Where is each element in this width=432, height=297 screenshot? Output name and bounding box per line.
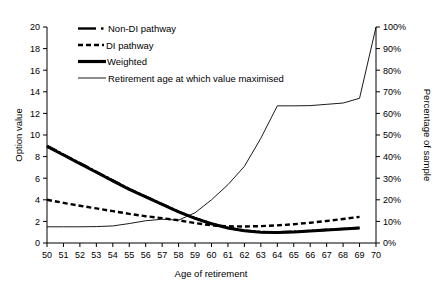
left-tick-label: 20 (30, 22, 40, 32)
legend-label-retirement-age: Retirement age at which value maximised (108, 73, 284, 84)
x-tick-label: 50 (42, 250, 52, 260)
x-tick-label: 63 (256, 250, 266, 260)
x-tick-label: 56 (141, 250, 151, 260)
left-tick-label: 12 (30, 109, 40, 119)
right-tick-label: 10% (383, 217, 401, 227)
left-tick-label: 10 (30, 130, 40, 140)
x-axis-title: Age of retirement (175, 268, 248, 279)
right-tick-label: 90% (383, 44, 401, 54)
right-axis-title: Percentage of sample (422, 89, 432, 181)
x-tick-label: 54 (108, 250, 118, 260)
right-tick-label: 20% (383, 195, 401, 205)
option-value-line-chart: 02468101214161820 0%10%20%30%40%50%60%70… (0, 0, 432, 297)
x-tick-label: 67 (322, 250, 332, 260)
x-tick-label: 61 (223, 250, 233, 260)
left-tick-label: 18 (30, 44, 40, 54)
legend-label-di: DI pathway (106, 40, 154, 51)
x-tick-label: 70 (371, 250, 381, 260)
x-tick-label: 65 (289, 250, 299, 260)
x-tick-label: 62 (239, 250, 249, 260)
right-tick-label: 0% (383, 238, 396, 248)
right-tick-label: 40% (383, 152, 401, 162)
x-tick-label: 68 (338, 250, 348, 260)
left-tick-label: 4 (35, 195, 40, 205)
right-tick-label: 60% (383, 109, 401, 119)
right-tick-label: 80% (383, 66, 401, 76)
left-tick-label: 14 (30, 87, 40, 97)
left-tick-label: 6 (35, 174, 40, 184)
right-tick-label: 30% (383, 174, 401, 184)
right-tick-label: 50% (383, 130, 401, 140)
right-tick-label: 70% (383, 87, 401, 97)
x-tick-label: 66 (305, 250, 315, 260)
x-tick-label: 52 (75, 250, 85, 260)
x-tick-label: 51 (58, 250, 68, 260)
x-tick-label: 58 (174, 250, 184, 260)
right-tick-label: 100% (383, 22, 406, 32)
legend-label-non-di: Non-DI pathway (108, 23, 176, 34)
x-axis-ticks (47, 243, 376, 247)
x-axis-tick-labels: 5051525354555657585960616263646566676869… (42, 250, 381, 260)
left-axis-title: Option value (13, 108, 24, 161)
x-tick-label: 53 (91, 250, 101, 260)
left-tick-label: 16 (30, 66, 40, 76)
legend-item-retirement-age: Retirement age at which value maximised (78, 73, 284, 84)
left-tick-label: 8 (35, 152, 40, 162)
x-tick-label: 59 (190, 250, 200, 260)
legend-label-weighted: Weighted (107, 56, 147, 67)
x-tick-label: 64 (272, 250, 282, 260)
x-tick-label: 57 (157, 250, 167, 260)
x-tick-label: 55 (124, 250, 134, 260)
x-tick-label: 69 (355, 250, 365, 260)
left-tick-label: 0 (35, 238, 40, 248)
chart-container: 02468101214161820 0%10%20%30%40%50%60%70… (0, 0, 432, 297)
x-tick-label: 60 (206, 250, 216, 260)
left-tick-label: 2 (35, 217, 40, 227)
